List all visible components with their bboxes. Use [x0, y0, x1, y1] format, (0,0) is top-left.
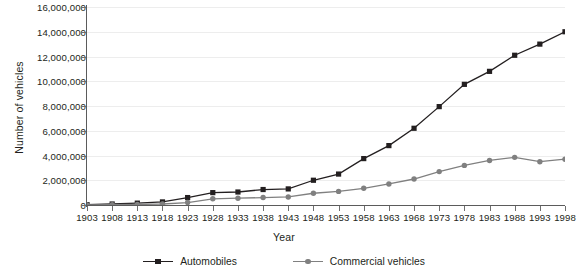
data-point-marker — [462, 163, 467, 168]
data-point-marker — [487, 69, 492, 74]
y-axis-tick-label: 0 — [22, 200, 86, 211]
x-axis-tick-mark — [389, 206, 390, 211]
y-axis-tick-label: 12,000,000 — [22, 51, 86, 62]
legend-item: Commercial vehicles — [293, 256, 425, 267]
x-axis-tick-mark — [112, 206, 113, 211]
x-axis-tick-mark — [288, 206, 289, 211]
x-axis-tick-label: 1988 — [504, 212, 526, 223]
x-axis-tick-mark — [313, 206, 314, 211]
y-axis-tick-label: 10,000,000 — [22, 76, 86, 87]
x-axis-tick-mark — [263, 206, 264, 211]
x-axis-tick-label: 1918 — [152, 212, 174, 223]
data-point-marker — [537, 159, 542, 164]
x-axis-tick-label: 1928 — [202, 212, 224, 223]
x-axis-tick-label: 1968 — [403, 212, 425, 223]
series-lines — [87, 7, 565, 205]
plot-area — [87, 7, 565, 205]
x-axis-tick-label: 1903 — [76, 212, 98, 223]
x-axis-tick-label: 1948 — [303, 212, 325, 223]
data-point-marker — [487, 158, 492, 163]
data-point-marker — [185, 195, 190, 200]
series-commercial-vehicles — [87, 155, 565, 205]
x-axis-tick-label: 1933 — [227, 212, 249, 223]
data-point-marker — [512, 155, 517, 160]
data-point-marker — [361, 156, 366, 161]
y-axis-tick-label: 6,000,000 — [22, 125, 86, 136]
legend-swatch-icon — [143, 257, 173, 266]
data-point-marker — [411, 126, 416, 131]
x-axis-tick-mark — [339, 206, 340, 211]
data-point-marker — [462, 82, 467, 87]
y-axis-tick-labels: 16,000,00014,000,00012,000,00010,000,000… — [22, 0, 86, 215]
x-axis-tick-mark — [137, 206, 138, 211]
x-axis-tick-label: 1998 — [554, 212, 576, 223]
series-automobiles — [87, 29, 565, 205]
y-axis-tick-label: 8,000,000 — [22, 101, 86, 112]
data-point-marker — [286, 194, 291, 199]
x-axis-tick-mark — [439, 206, 440, 211]
x-axis-tick-mark — [464, 206, 465, 211]
data-point-marker — [311, 178, 316, 183]
data-point-marker — [437, 104, 442, 109]
y-axis-tick-label: 14,000,000 — [22, 26, 86, 37]
x-axis-tick-mark — [540, 206, 541, 211]
legend-item-label: Automobiles — [180, 256, 237, 267]
chart-legend: AutomobilesCommercial vehicles — [0, 256, 568, 267]
data-point-marker — [235, 195, 240, 200]
x-axis-tick-label: 1963 — [378, 212, 400, 223]
x-axis-tick-label: 1958 — [353, 212, 375, 223]
data-point-marker — [286, 186, 291, 191]
data-point-marker — [235, 189, 240, 194]
data-point-marker — [386, 143, 391, 148]
x-axis-tick-mark — [565, 206, 566, 211]
data-point-marker — [437, 169, 442, 174]
data-point-marker — [386, 181, 391, 186]
x-axis-tick-label: 1978 — [453, 212, 475, 223]
x-axis-tick-label: 1923 — [177, 212, 199, 223]
data-point-marker — [261, 187, 266, 192]
x-axis-tick-label: 1983 — [479, 212, 501, 223]
x-axis-tick-label: 1953 — [328, 212, 350, 223]
data-point-marker — [185, 200, 190, 205]
y-axis-tick-label: 4,000,000 — [22, 150, 86, 161]
data-point-marker — [260, 195, 265, 200]
x-axis-tick-mark — [162, 206, 163, 211]
data-point-marker — [311, 191, 316, 196]
legend-item: Automobiles — [143, 256, 237, 267]
series-line — [87, 157, 565, 205]
x-axis-line — [86, 205, 565, 206]
x-axis-tick-label: 1973 — [428, 212, 450, 223]
data-point-marker — [512, 53, 517, 58]
data-point-marker — [210, 196, 215, 201]
data-point-marker — [562, 157, 565, 162]
x-axis-tick-mark — [213, 206, 214, 211]
data-point-marker — [562, 29, 565, 34]
x-axis-tick-mark — [490, 206, 491, 211]
legend-item-label: Commercial vehicles — [330, 256, 425, 267]
x-axis-tick-mark — [188, 206, 189, 211]
series-line — [87, 32, 565, 205]
legend-swatch-icon — [293, 257, 323, 266]
x-axis-tick-label: 1938 — [252, 212, 274, 223]
x-axis-tick-mark — [238, 206, 239, 211]
data-point-marker — [336, 171, 341, 176]
data-point-marker — [537, 42, 542, 47]
x-axis-tick-label: 1943 — [277, 212, 299, 223]
data-point-marker — [361, 186, 366, 191]
x-axis-tick-label: 1993 — [529, 212, 551, 223]
data-point-marker — [411, 176, 416, 181]
data-point-marker — [210, 190, 215, 195]
x-axis-title: Year — [0, 231, 568, 243]
x-axis-tick-mark — [364, 206, 365, 211]
x-axis-tick-mark — [414, 206, 415, 211]
x-axis-tick-mark — [515, 206, 516, 211]
data-point-marker — [336, 189, 341, 194]
x-axis-tick-label: 1913 — [126, 212, 148, 223]
y-axis-tick-label: 16,000,000 — [22, 2, 86, 13]
y-axis-tick-label: 2,000,000 — [22, 175, 86, 186]
x-axis-tick-label: 1908 — [101, 212, 123, 223]
